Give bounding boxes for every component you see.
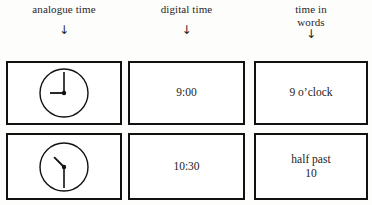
table-cell-analogue-row-2 (6, 133, 122, 200)
down-arrow-icon: ↓ (254, 28, 368, 41)
digital-time-value: 10:30 (173, 160, 199, 174)
table-cell-digital-row-2: 10:30 (128, 133, 245, 200)
table-cell-digital-row-1: 9:00 (128, 61, 245, 125)
table-cell-analogue-row-1 (6, 61, 122, 125)
analogue-clock-row-1 (38, 67, 90, 119)
column-header-time-in-words: time in words ↓ (254, 0, 368, 41)
column-header-analogue-time: analogue time ↓ (6, 0, 122, 37)
down-arrow-icon: ↓ (128, 24, 245, 37)
analogue-clock-row-2 (38, 141, 90, 193)
worksheet-time-table: analogue time ↓ digital time ↓ time in w… (0, 0, 372, 205)
table-cell-words-row-2: half past 10 (254, 133, 368, 200)
column-header-label: time in words (254, 0, 368, 28)
digital-time-value: 9:00 (176, 86, 196, 100)
clock-center-hub (62, 164, 66, 168)
time-in-words-value: 9 o’clock (289, 86, 332, 100)
column-header-digital-time: digital time ↓ (128, 0, 245, 37)
table-cell-words-row-1: 9 o’clock (254, 61, 368, 125)
column-header-label: digital time (128, 0, 245, 16)
clock-center-hub (62, 91, 66, 95)
down-arrow-icon: ↓ (6, 24, 122, 37)
time-in-words-value: half past 10 (291, 153, 330, 180)
column-header-label: analogue time (6, 0, 122, 16)
